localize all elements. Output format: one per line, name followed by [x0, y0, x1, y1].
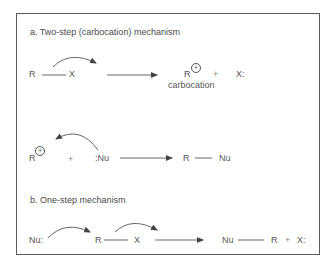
step2-cation: R: [29, 154, 36, 163]
step2-product-nu: Nu: [219, 154, 231, 163]
b-product-nu: Nu: [222, 236, 234, 245]
b-plus: +: [285, 236, 290, 245]
step1-plus: +: [213, 70, 218, 79]
carbocation-label: carbocation: [168, 81, 215, 90]
section-a-title: a. Two-step (carbocation) mechanism: [30, 28, 180, 37]
step1-reactant-r: R: [29, 70, 36, 79]
step2-product-r: R: [183, 154, 190, 163]
diagram-frame: [16, 13, 320, 255]
b-substrate-x: X: [134, 236, 140, 245]
step1-leaving-group: X:: [236, 70, 245, 79]
step2-cation-charge-icon: +: [35, 146, 45, 156]
section-b-title: b. One-step mechanism: [30, 196, 126, 205]
step1-reactant-x: X: [69, 70, 75, 79]
b-leaving-group: X:: [297, 236, 306, 245]
step2-nucleophile: :Nu: [95, 154, 109, 163]
step1-product-cation: R: [184, 70, 191, 79]
b-substrate-r: R: [95, 236, 102, 245]
cation-charge-icon: +: [191, 63, 201, 73]
step2-plus: +: [68, 155, 73, 164]
b-nucleophile: Nu:: [29, 236, 43, 245]
b-product-r: R: [271, 236, 278, 245]
